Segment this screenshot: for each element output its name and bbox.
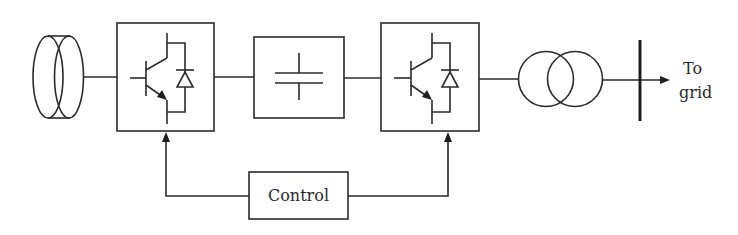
converter-2: [381, 23, 479, 131]
arrow-up-icon: [162, 132, 170, 142]
control-label: Control: [268, 186, 329, 205]
control-line-converter1: [166, 140, 249, 196]
wind-converter-diagram: To grid Control: [0, 0, 738, 235]
arrow-up-icon: [444, 132, 452, 142]
control-line-converter2: [348, 140, 448, 196]
converter-1: [117, 23, 214, 131]
arrow-to-grid-icon: [660, 76, 670, 84]
output-label-to: To: [683, 59, 702, 78]
control-block: Control: [249, 172, 348, 219]
output-label-grid: grid: [679, 83, 712, 102]
generator-icon: [33, 36, 84, 118]
dc-link: [254, 37, 344, 118]
transformer-icon: [519, 52, 603, 107]
